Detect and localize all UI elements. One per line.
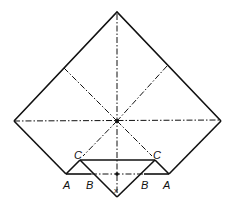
fold-line-diag-lower-left: [83, 121, 117, 156]
center-dot: [115, 119, 119, 123]
fold-line-diag-lower-right: [117, 121, 152, 156]
flap-left-edge: [66, 160, 80, 174]
label-c-right: C: [153, 150, 161, 161]
outline-right-lower: [169, 121, 221, 174]
flap-right-edge: [155, 160, 169, 174]
triangle-right: [117, 160, 155, 197]
label-a-left: A: [63, 180, 70, 191]
flap-dot: [115, 172, 119, 176]
label-x: x: [114, 187, 118, 195]
diagram-drawing: [0, 0, 233, 199]
fold-line-diag-right: [117, 66, 167, 121]
origami-diagram: C C A B B A x: [0, 0, 233, 199]
fold-line-diag-left: [64, 68, 117, 121]
label-b-right: B: [141, 180, 148, 191]
label-c-left: C: [74, 150, 82, 161]
outline-left-lower: [14, 121, 66, 174]
label-b-left: B: [86, 180, 93, 191]
label-a-right: A: [163, 180, 170, 191]
